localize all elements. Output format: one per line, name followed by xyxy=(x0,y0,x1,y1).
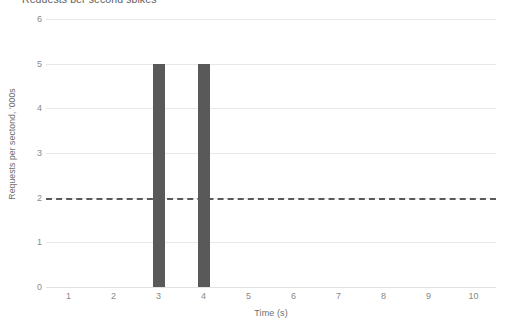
y-axis-tick-labels: 0123456 xyxy=(22,0,42,328)
x-axis-tick-label: 9 xyxy=(426,291,431,302)
gridline xyxy=(46,108,496,109)
chart-title: Requests per second spikes xyxy=(22,0,157,3)
x-axis-tick-label: 5 xyxy=(246,291,251,302)
threshold-line xyxy=(46,198,496,200)
x-axis-tick-label: 7 xyxy=(336,291,341,302)
y-axis-tick-label: 1 xyxy=(26,238,42,247)
y-axis-title-label: Requests per sectond, '000s xyxy=(7,88,17,199)
gridline xyxy=(46,242,496,243)
y-axis-tick-label: 0 xyxy=(26,283,42,292)
y-axis-tick-label: 6 xyxy=(26,15,42,24)
chart-container: Requests per second spikes Requests per … xyxy=(0,0,505,328)
x-axis-tick-labels: 12345678910 xyxy=(46,291,496,305)
x-axis-tick-label: 4 xyxy=(201,291,206,302)
x-axis-title: Time (s) xyxy=(46,308,496,318)
y-axis-tick-label: 5 xyxy=(26,59,42,68)
gridline xyxy=(46,19,496,20)
gridline xyxy=(46,287,496,288)
gridline xyxy=(46,153,496,154)
bar xyxy=(198,64,210,287)
x-axis-tick-label: 3 xyxy=(156,291,161,302)
x-axis-tick-label: 2 xyxy=(111,291,116,302)
y-axis-tick-label: 3 xyxy=(26,149,42,158)
y-axis-tick-label: 2 xyxy=(26,193,42,202)
x-axis-tick-label: 10 xyxy=(468,291,478,302)
gridline xyxy=(46,64,496,65)
y-axis-title: Requests per sectond, '000s xyxy=(0,0,24,287)
x-axis-tick-label: 1 xyxy=(66,291,71,302)
x-axis-tick-label: 6 xyxy=(291,291,296,302)
bar xyxy=(153,64,165,287)
plot-area xyxy=(46,19,496,287)
x-axis-tick-label: 8 xyxy=(381,291,386,302)
y-axis-tick-label: 4 xyxy=(26,104,42,113)
